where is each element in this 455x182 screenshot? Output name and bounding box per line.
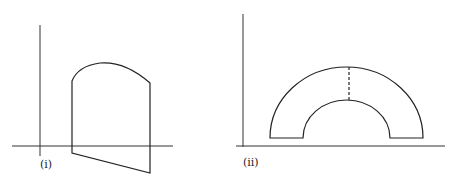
panel-label-ii: (ii) [243,156,259,169]
panel-i: (i) [12,25,173,173]
diagram: (i) (ii) [0,0,455,182]
panel-ii: (ii) [236,14,445,169]
half-annulus [270,67,423,138]
panel-label-i: (i) [40,158,52,171]
region-i [72,63,150,173]
